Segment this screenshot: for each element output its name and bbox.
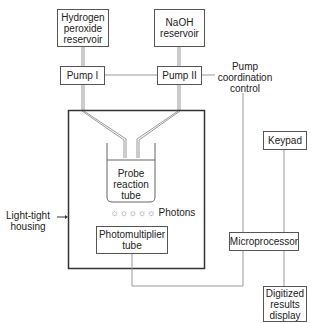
probe-reaction-tube: Probe reaction tube <box>108 168 154 201</box>
hydrogen-peroxide-reservoir: Hydrogen peroxide reservoir <box>57 9 109 47</box>
diagram-canvas: Hydrogen peroxide reservoir NaOH reservo… <box>0 0 316 323</box>
photons-row: ☼☼☼☼☼ Photons <box>110 207 195 219</box>
naoh-reservoir: NaOH reservoir <box>154 9 205 47</box>
microprocessor: Microprocessor <box>229 232 299 251</box>
photon-icons: ☼☼☼☼☼ <box>110 207 156 218</box>
photons-label: Photons <box>159 207 196 218</box>
pump-1: Pump I <box>60 66 105 85</box>
keypad: Keypad <box>263 131 307 150</box>
connector-lines <box>0 0 316 323</box>
pump-coordination-control-label: Pump coordination control <box>216 61 274 94</box>
light-tight-housing-label: Light-tight housing <box>2 210 54 232</box>
photomultiplier-tube: Photomultiplier tube <box>96 226 168 254</box>
pump-2: Pump II <box>157 66 202 85</box>
digitized-results-display: Digitized results display <box>263 286 307 322</box>
